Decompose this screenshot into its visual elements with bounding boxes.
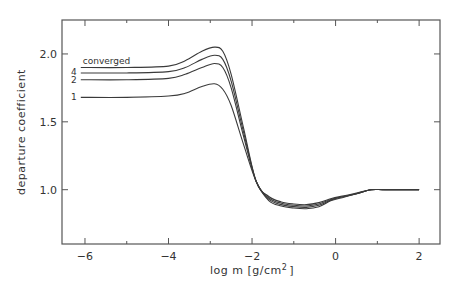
x-tick-label: −2 xyxy=(244,250,260,263)
y-axis-label: departure coefficient xyxy=(15,69,28,195)
curves xyxy=(81,47,419,209)
curve-labels: converged421 xyxy=(71,56,130,103)
x-tick-label: 2 xyxy=(416,250,423,263)
y-tick-label: 2.0 xyxy=(40,48,58,61)
x-tick-label: 0 xyxy=(332,250,339,263)
x-axis-label: log m [g/cm2] xyxy=(210,263,294,277)
curve-1 xyxy=(81,84,419,209)
x-tick-label: −4 xyxy=(160,250,176,263)
curve-converged xyxy=(81,47,419,205)
curve-2 xyxy=(81,63,419,207)
curve-label-converged: converged xyxy=(83,56,131,66)
y-tick-label: 1.0 xyxy=(40,184,58,197)
y-tick-label: 1.5 xyxy=(40,116,58,129)
curve-4 xyxy=(81,55,419,206)
x-tick-label: −6 xyxy=(77,250,93,263)
plot-frame xyxy=(62,20,440,244)
curve-label-2: 2 xyxy=(71,75,77,85)
curve-label-1: 1 xyxy=(71,92,77,102)
departure-coefficient-chart: −6−4−2021.01.52.0 converged421 departure… xyxy=(0,0,460,293)
